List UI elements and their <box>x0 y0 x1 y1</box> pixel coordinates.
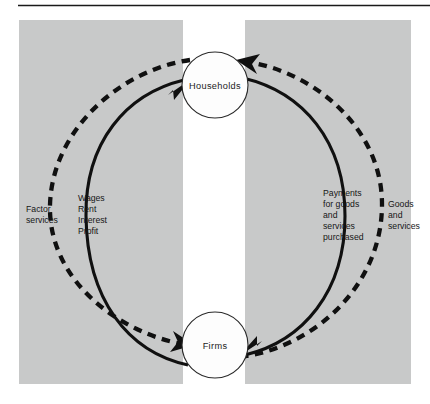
goods-services-label-line-3: services <box>388 221 421 231</box>
payments-label-line-2: for goods <box>323 199 360 209</box>
factor-services-label-line-2: services <box>26 215 59 225</box>
factor-incomes-label-line-4: Profit <box>78 226 99 236</box>
goods-services-label-line-1: Goods <box>388 199 414 209</box>
payments-label-line-4: services <box>323 221 356 231</box>
factor-services-label-line-1: Factor <box>26 204 51 214</box>
firms-node-label: Firms <box>203 341 228 351</box>
payments-label-line-1: Payments <box>323 188 362 198</box>
payments-label-line-5: purchased <box>323 232 364 242</box>
factor-incomes-label-line-3: Interest <box>78 215 108 225</box>
households-node-label: Households <box>189 81 241 91</box>
payments-label-line-3: and <box>323 210 338 220</box>
circular-flow-diagram: Households Firms Factor services Wages R… <box>0 0 430 404</box>
factor-incomes-label-line-2: Rent <box>78 204 97 214</box>
circular-flow-figure: Households Firms Factor services Wages R… <box>0 0 430 404</box>
factor-incomes-label-line-1: Wages <box>78 193 105 203</box>
goods-services-label-line-2: and <box>388 210 403 220</box>
